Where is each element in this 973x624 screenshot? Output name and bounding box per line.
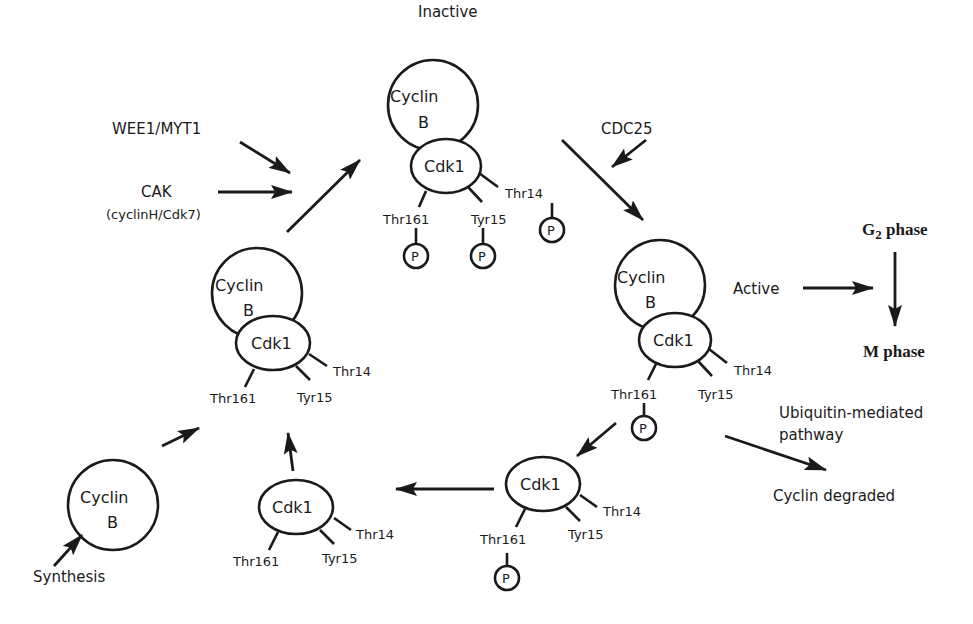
svg-text:B: B (243, 301, 254, 320)
free-cdk1: Cdk1 Thr161 Tyr15 Thr14 (232, 480, 394, 569)
svg-text:Tyr15: Tyr15 (697, 387, 734, 402)
ubiquitin-label-2: pathway (779, 426, 844, 444)
svg-text:Cdk1: Cdk1 (272, 498, 313, 517)
cak-label: CAK (141, 183, 173, 201)
svg-text:Thr161: Thr161 (232, 554, 279, 569)
svg-text:P: P (411, 249, 419, 264)
inactive-complex: Inactive Cyclin B Cdk1 Thr161 Tyr15 Thr1… (382, 3, 564, 268)
svg-text:Thr14: Thr14 (733, 363, 772, 378)
svg-text:Thr161: Thr161 (610, 387, 657, 402)
cdc25-label: CDC25 (601, 120, 653, 138)
synthesis-arrow (54, 535, 82, 566)
svg-text:Thr14: Thr14 (355, 527, 394, 542)
precursor-complex: Cyclin B Cdk1 Thr161 Tyr15 Thr14 (209, 248, 371, 406)
svg-text:Cyclin: Cyclin (215, 276, 263, 295)
svg-text:Cdk1: Cdk1 (251, 334, 292, 353)
cak-sub-label: (cyclinH/Cdk7) (106, 207, 201, 222)
cdk1-label: Cdk1 (424, 157, 465, 176)
inactive-label: Inactive (418, 3, 478, 21)
svg-text:Cyclin: Cyclin (617, 268, 665, 287)
svg-text:Tyr15: Tyr15 (567, 527, 604, 542)
wee1-arrow (240, 142, 290, 173)
active-complex: Cyclin B Cdk1 Thr161 Tyr15 Thr14 P (610, 240, 772, 440)
svg-text:Tyr15: Tyr15 (296, 390, 333, 405)
svg-text:Cdk1: Cdk1 (520, 475, 561, 494)
free-cdk1-phospho: Cdk1 Thr161 Tyr15 Thr14 P (479, 457, 641, 590)
svg-text:Cyclin: Cyclin (80, 488, 128, 507)
svg-text:P: P (478, 249, 486, 264)
svg-text:B: B (107, 513, 118, 532)
svg-text:Tyr15: Tyr15 (321, 551, 358, 566)
svg-text:P: P (639, 421, 647, 436)
svg-text:Thr14: Thr14 (332, 364, 371, 379)
cyclin-degraded-label: Cyclin degraded (773, 487, 895, 505)
to-inactive-arrow (287, 160, 360, 232)
tyr15-label: Tyr15 (470, 212, 507, 227)
thr161-label: Thr161 (382, 212, 429, 227)
m-phase-label: M phase (863, 342, 925, 361)
svg-text:P: P (502, 571, 510, 586)
svg-text:Thr161: Thr161 (209, 391, 256, 406)
cyclin-label: Cyclin (390, 87, 438, 106)
svg-text:Thr14: Thr14 (602, 504, 641, 519)
svg-text:Cdk1: Cdk1 (653, 331, 694, 350)
synthesis-label: Synthesis (33, 568, 106, 586)
cdc25-arrow (612, 140, 646, 167)
svg-text:P: P (547, 223, 555, 238)
cyclin-b-label: B (418, 113, 429, 132)
cdk1-to-complex-arrow (288, 433, 293, 471)
cdk1-cycle-diagram: Inactive Cyclin B Cdk1 Thr161 Tyr15 Thr1… (0, 0, 973, 624)
ubiquitin-label-1: Ubiquitin-mediated (779, 404, 923, 422)
thr14-label: Thr14 (504, 186, 543, 201)
wee1-myt1-label: WEE1/MYT1 (112, 120, 201, 138)
svg-text:Thr161: Thr161 (479, 532, 526, 547)
cyclin-to-complex-arrow (162, 428, 199, 446)
svg-text:B: B (645, 293, 656, 312)
g2-phase-label: G2 phase (862, 220, 928, 242)
active-label: Active (733, 280, 779, 298)
to-free-cdk1-arrow (577, 423, 616, 456)
